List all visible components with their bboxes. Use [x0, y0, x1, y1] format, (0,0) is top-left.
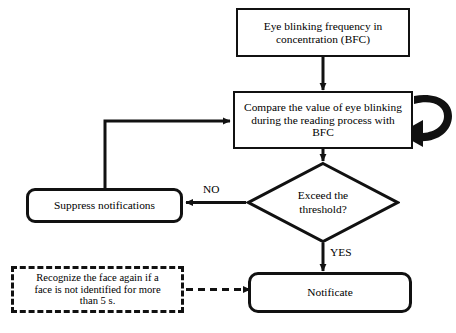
node-compare-eye-blinking: Compare the value of eye blinking during…: [233, 91, 413, 149]
flowchart-canvas: Eye blinking frequency in concentration …: [0, 0, 456, 333]
edge-suppress-feedback-to-compare: [105, 121, 230, 188]
node-recognize-face-again: Recognize the face again if a face is no…: [11, 266, 184, 313]
edge-label-no: NO: [203, 183, 219, 195]
node-decision-exceed-threshold-label: Exceed the threshold?: [246, 161, 400, 244]
node-suppress-notifications-label: Suppress notifications: [29, 199, 180, 212]
node-notificate: Notificate: [248, 272, 412, 313]
node-eye-blinking-frequency: Eye blinking frequency in concentration …: [236, 8, 410, 57]
node-eye-blinking-frequency-label: Eye blinking frequency in concentration …: [238, 20, 408, 46]
edge-label-yes: YES: [330, 246, 352, 258]
node-decision-exceed-threshold: Exceed the threshold?: [246, 161, 400, 244]
node-notificate-label: Notificate: [251, 286, 409, 299]
node-recognize-face-again-label: Recognize the face again if a face is no…: [14, 272, 181, 308]
node-compare-eye-blinking-label: Compare the value of eye blinking during…: [235, 101, 411, 139]
figure-caption: [204, 322, 404, 332]
node-suppress-notifications: Suppress notifications: [26, 188, 183, 223]
